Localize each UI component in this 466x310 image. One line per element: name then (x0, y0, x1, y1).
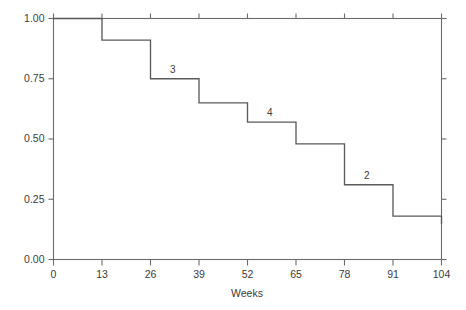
y-tick-label: 0.50 (24, 132, 45, 144)
x-tick-label: 52 (242, 268, 254, 280)
censor-count-label: 4 (267, 107, 273, 118)
x-tick-label: 0 (51, 268, 57, 280)
x-axis-tick-labels: 013263952657891104 (51, 268, 451, 280)
y-tick-label: 1.00 (24, 12, 45, 24)
x-tick-label: 39 (193, 268, 205, 280)
y-axis-ticks (49, 19, 447, 260)
y-tick-label: 0.75 (24, 72, 45, 84)
y-axis-tick-labels: 0.000.250.500.751.00 (24, 12, 45, 265)
x-tick-label: 65 (290, 268, 302, 280)
x-tick-label: 78 (339, 268, 351, 280)
x-tick-label: 91 (387, 268, 399, 280)
censor-count-label: 3 (170, 64, 176, 75)
figure-caption (0, 303, 466, 310)
x-axis-ticks (54, 14, 442, 266)
censor-count-label: 2 (364, 170, 370, 181)
x-tick-label: 13 (96, 268, 108, 280)
survival-step-curve (54, 19, 442, 225)
plot-frame (54, 19, 442, 260)
kaplan-meier-chart: 0.000.250.500.751.00 013263952657891104 … (0, 0, 466, 310)
x-tick-label: 26 (145, 268, 157, 280)
x-tick-label: 104 (433, 268, 451, 280)
y-tick-label: 0.00 (24, 253, 45, 265)
y-tick-label: 0.25 (24, 193, 45, 205)
x-axis-title: Weeks (231, 287, 263, 299)
chart-svg: 0.000.250.500.751.00 013263952657891104 … (0, 0, 466, 310)
